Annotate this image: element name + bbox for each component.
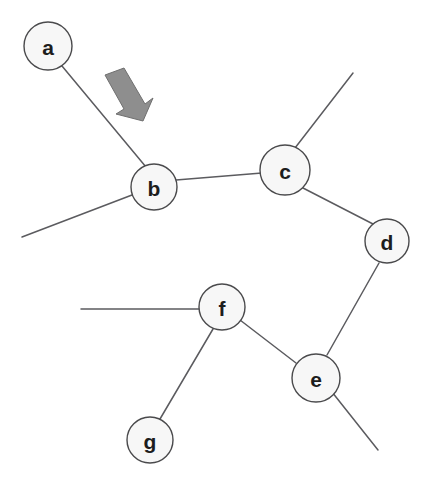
node-b[interactable]: b bbox=[131, 164, 177, 210]
edge-b-stub-left bbox=[22, 195, 132, 237]
node-g-label: g bbox=[144, 430, 157, 453]
node-c-label: c bbox=[279, 160, 291, 183]
edge-e-stub-lowright bbox=[332, 392, 378, 450]
node-f-label: f bbox=[219, 297, 227, 320]
diagram-canvas: a b c d e f bbox=[0, 0, 436, 486]
annotation-group bbox=[105, 68, 153, 121]
node-a[interactable]: a bbox=[24, 22, 72, 70]
graph-svg: a b c d e f bbox=[0, 0, 436, 486]
edge-d-e bbox=[327, 263, 379, 355]
edge-b-c bbox=[176, 173, 262, 180]
nodes-group: a b c d e f bbox=[24, 22, 409, 463]
edge-c-stub-upright bbox=[295, 73, 353, 148]
node-b-label: b bbox=[148, 177, 161, 200]
node-d[interactable]: d bbox=[365, 219, 409, 263]
node-e-label: e bbox=[310, 368, 322, 391]
node-f[interactable]: f bbox=[199, 284, 245, 330]
node-d-label: d bbox=[381, 231, 394, 254]
edge-c-d bbox=[303, 188, 373, 224]
edge-e-f bbox=[240, 320, 296, 363]
down-right-arrow-icon bbox=[105, 68, 153, 121]
node-c[interactable]: c bbox=[260, 145, 310, 195]
node-a-label: a bbox=[42, 36, 54, 59]
edge-f-g bbox=[160, 329, 213, 419]
node-g[interactable]: g bbox=[127, 417, 173, 463]
node-e[interactable]: e bbox=[292, 354, 340, 402]
